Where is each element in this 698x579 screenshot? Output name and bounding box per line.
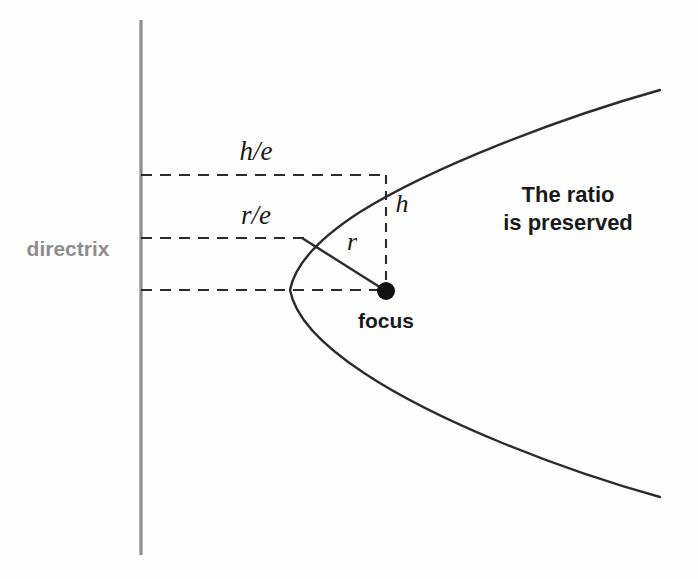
conic-diagram-canvas: directrix h/e r/e r h focus The ratio is… (0, 0, 698, 579)
conic-curve (290, 90, 660, 497)
h-label: h (396, 189, 409, 218)
note-line-1: The ratio (522, 182, 615, 207)
focus-label: focus (358, 309, 414, 332)
note-line-2: is preserved (503, 210, 633, 235)
radius-line-r (302, 238, 386, 291)
focus-point-dot (377, 282, 395, 300)
r-label: r (347, 227, 358, 256)
r-over-e-label: r/e (241, 200, 271, 230)
figure-root: directrix h/e r/e r h focus The ratio is… (0, 0, 698, 579)
h-over-e-label: h/e (240, 136, 273, 166)
directrix-label: directrix (27, 237, 110, 260)
